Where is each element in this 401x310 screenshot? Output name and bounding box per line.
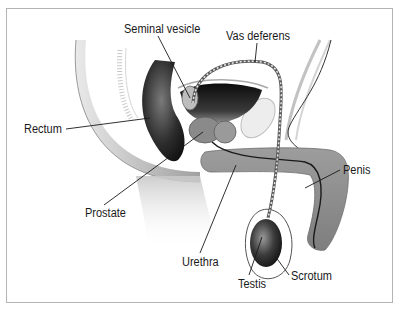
label-vas-deferens: Vas deferens <box>226 30 290 43</box>
label-rectum: Rectum <box>24 123 62 136</box>
label-seminal-vesicle: Seminal vesicle <box>124 23 200 36</box>
label-urethra: Urethra <box>182 256 219 269</box>
label-testis: Testis <box>238 278 266 291</box>
label-penis: Penis <box>343 164 371 177</box>
label-prostate: Prostate <box>85 207 126 220</box>
label-scrotum: Scrotum <box>291 270 332 283</box>
